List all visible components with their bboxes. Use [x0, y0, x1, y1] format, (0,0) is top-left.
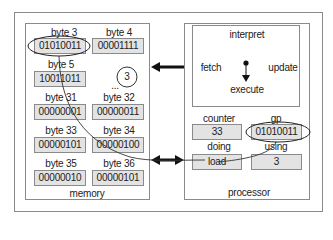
processor-title: processor	[222, 187, 276, 198]
byte-34-label: byte 34	[95, 125, 143, 136]
byte-31-label: byte 31	[37, 92, 85, 103]
byte-36-label: byte 36	[95, 158, 143, 169]
byte-5-label: byte 5	[37, 59, 85, 70]
byte-5-cell: 10011011	[34, 71, 86, 87]
cycle-interpret-label: interpret	[222, 29, 272, 40]
gp-cell: 01010011	[251, 124, 302, 140]
byte-4-label: byte 4	[95, 27, 143, 38]
cycle-execute-label: execute	[222, 84, 272, 95]
cycle-update-label: update	[266, 62, 300, 73]
byte-36-cell: 00000101	[92, 170, 144, 186]
doing-cell: load	[192, 154, 242, 170]
byte-35-cell: 00000010	[34, 170, 86, 186]
byte-33-cell: 00000101	[34, 137, 86, 153]
counter-cell: 33	[192, 124, 242, 140]
gp-label: gp	[250, 113, 302, 124]
byte-31-cell: 00000001	[34, 104, 86, 120]
ellipsis: ...	[110, 80, 120, 91]
callout-value: 3	[121, 71, 133, 82]
byte-34-cell: 00000100	[92, 137, 144, 153]
byte-33-label: byte 33	[37, 125, 85, 136]
byte-35-label: byte 35	[37, 158, 85, 169]
byte-3-cell: 01010011	[34, 38, 86, 54]
using-label: using	[250, 141, 302, 152]
byte-32-label: byte 32	[95, 92, 143, 103]
byte-4-cell: 00001111	[92, 38, 144, 54]
doing-label: doing	[193, 141, 245, 152]
cycle-fetch-label: fetch	[196, 62, 226, 73]
byte-3-label: byte 3	[40, 27, 88, 38]
memory-title: memory	[62, 188, 112, 199]
using-cell: 3	[251, 154, 302, 170]
byte-32-cell: 00000011	[92, 104, 144, 120]
counter-label: counter	[193, 113, 245, 124]
